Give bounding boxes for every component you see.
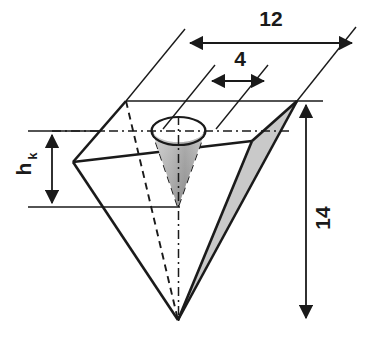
dimension-4-label: 4 [234,47,246,70]
dimension-14-label: 14 [311,206,334,230]
dimension-hk-label-subscript: k [25,152,40,160]
pyramid-cone-diagram: 12 4 14 h k [0,0,375,352]
oblique-line-left [126,29,185,101]
dimension-14: 14 [306,105,334,318]
dimension-hk-label: h [12,163,35,176]
dimension-4: 4 [212,47,264,81]
edge-slant-left [73,162,178,320]
oblique-line-bore-right [216,65,268,129]
technical-drawing-figure: 12 4 14 h k [0,0,375,352]
oblique-line-right [297,27,356,101]
dimension-12: 12 [190,7,352,43]
dimension-12-label: 12 [259,7,282,30]
